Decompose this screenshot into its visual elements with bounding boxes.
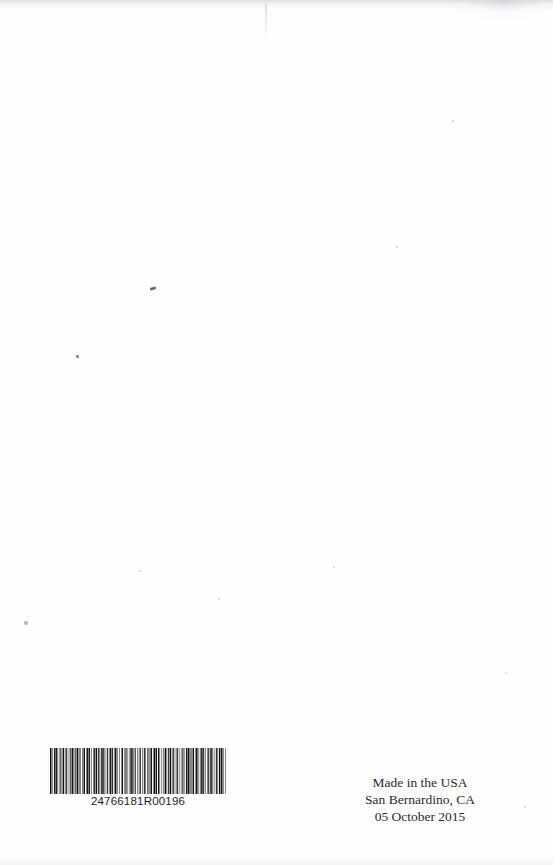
dust-speck	[452, 120, 454, 122]
dust-speck	[333, 566, 335, 568]
scanned-page: 24766181R00196 Made in the USA San Berna…	[0, 0, 553, 865]
imprint-line-city: San Bernardino, CA	[340, 791, 500, 808]
imprint-block: Made in the USA San Bernardino, CA 05 Oc…	[340, 774, 500, 825]
barcode-number-label: 24766181R00196	[50, 795, 226, 808]
dust-speck	[524, 806, 526, 808]
dust-speck	[150, 286, 157, 291]
barcode-block: 24766181R00196	[50, 748, 226, 808]
dust-speck	[396, 246, 398, 248]
scan-edge-artifact-bottom	[0, 851, 553, 865]
imprint-line-date: 05 October 2015	[340, 808, 500, 825]
imprint-line-made-in: Made in the USA	[340, 774, 500, 791]
code-128-barcode	[50, 748, 226, 794]
dust-speck	[24, 621, 28, 625]
scan-streak-artifact	[265, 4, 267, 42]
dust-speck	[505, 672, 507, 674]
scan-edge-artifact-top-right	[430, 0, 553, 34]
dust-speck	[139, 570, 141, 572]
scan-edge-artifact-top	[0, 0, 553, 10]
dust-speck	[76, 355, 79, 358]
dust-speck	[218, 598, 220, 600]
